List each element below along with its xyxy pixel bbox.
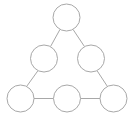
edge-middle-right-to-bottom-right	[97, 71, 108, 87]
edge-middle-left-to-bottom-left	[27, 71, 39, 87]
edge-top-to-middle-right	[73, 29, 85, 46]
node-bottom-middle	[54, 85, 81, 112]
node-layer	[7, 4, 127, 112]
node-middle-left	[31, 45, 58, 72]
node-middle-right	[78, 45, 105, 72]
node-top	[53, 4, 80, 31]
node-bottom-right	[100, 85, 127, 112]
node-bottom-left	[7, 85, 34, 112]
triangular-node-graph	[0, 0, 135, 124]
graph-canvas	[0, 0, 135, 124]
edge-top-to-middle-left	[51, 29, 61, 46]
